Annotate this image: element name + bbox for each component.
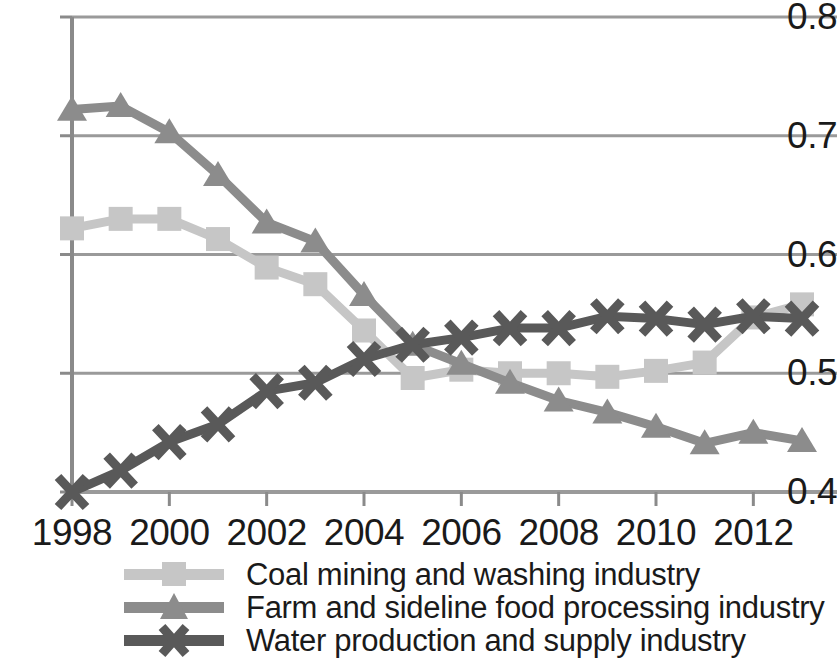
x-axis-tick-label: 2012 [713,512,793,554]
x-axis-tick-label: 2004 [324,512,404,554]
legend-label-farm: Farm and sideline food processing indust… [228,590,824,626]
data-point-marker [547,361,571,385]
data-point-marker [303,272,327,296]
data-point-marker [644,359,668,383]
y-axis-tick-label: 0.5 [779,352,837,394]
legend-item-farm: Farm and sideline food processing indust… [120,591,837,624]
series-line [72,316,802,492]
x-axis-tick-label: 2006 [421,512,501,554]
line-chart: 0.40.50.60.70.8 199820002002200420062008… [0,0,837,660]
x-axis-tick-label: 2010 [616,512,696,554]
y-axis-tick-label: 0.6 [779,234,837,276]
legend-item-coal: Coal mining and washing industry [120,558,837,591]
legend-key-cross [120,624,228,657]
data-point-marker [255,256,279,280]
legend-key-square [120,558,228,591]
legend-label-water: Water production and supply industry [228,623,746,659]
x-axis-tick-label: 1998 [32,512,112,554]
legend-key-triangle [120,591,228,624]
y-axis-tick-label: 0.7 [779,115,837,157]
data-point-marker [206,227,230,251]
data-point-marker [693,351,717,375]
chart-legend: Coal mining and washing industry Farm an… [120,558,837,657]
data-point-marker [401,366,425,390]
data-point-marker [60,216,84,240]
data-point-marker [157,207,181,231]
legend-item-water: Water production and supply industry [120,624,837,657]
data-point-marker [595,365,619,389]
data-point-marker [109,207,133,231]
series-line [72,106,802,443]
legend-label-coal: Coal mining and washing industry [228,557,700,593]
y-axis-tick-label: 0.8 [779,0,837,38]
x-axis-tick-label: 2000 [129,512,209,554]
data-point-marker [352,319,376,343]
x-axis-tick-label: 2008 [519,512,599,554]
x-axis-tick-label: 2002 [227,512,307,554]
y-axis-tick-label: 0.4 [779,471,837,513]
